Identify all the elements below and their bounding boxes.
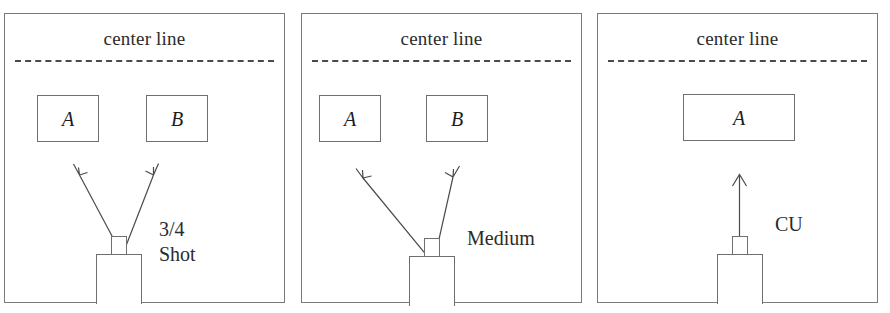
center-line-dashed-rule xyxy=(608,60,867,62)
camera-lens-icon xyxy=(732,236,748,255)
camera-body-icon xyxy=(409,256,455,306)
arrow-head-right xyxy=(445,166,460,177)
shot-type-label: Medium xyxy=(467,226,535,251)
arrow-head-right xyxy=(146,164,159,176)
center-line-dashed-rule xyxy=(15,60,274,62)
shot-panel-closeup: center line A CU xyxy=(597,13,878,303)
subject-box-a: A xyxy=(683,94,795,141)
shot-type-label: CU xyxy=(775,212,803,237)
center-line-label: center line xyxy=(302,28,581,50)
subject-box-b-label: B xyxy=(427,108,487,130)
sightline-arrows xyxy=(5,14,286,304)
camera-lens-icon xyxy=(424,238,440,257)
subject-box-b-label: B xyxy=(147,108,207,130)
subject-box-b: B xyxy=(426,95,488,142)
diagram-canvas: center line A B 3/4 Shot center line A xyxy=(0,0,890,313)
arrow-head-left xyxy=(74,164,88,175)
subject-box-a-label: A xyxy=(320,108,380,130)
shot-panel-medium: center line A B Medium xyxy=(301,13,582,303)
shot-panel-three-quarter: center line A B 3/4 Shot xyxy=(4,13,285,303)
center-line-label: center line xyxy=(598,28,877,50)
camera-body-icon xyxy=(717,254,763,304)
subject-box-a-label: A xyxy=(38,108,98,130)
camera-icon xyxy=(96,236,142,304)
subject-box-a-label: A xyxy=(684,107,794,129)
camera-lens-icon xyxy=(111,236,127,255)
camera-body-icon xyxy=(96,254,142,304)
camera-icon xyxy=(409,238,457,304)
subject-box-a: A xyxy=(319,95,381,142)
center-line-label: center line xyxy=(5,28,284,50)
arrow-head-center xyxy=(733,175,747,187)
camera-icon xyxy=(717,236,763,304)
subject-box-a: A xyxy=(37,95,99,142)
subject-box-b: B xyxy=(146,95,208,142)
arrow-head-left xyxy=(356,169,372,179)
shot-type-label: 3/4 Shot xyxy=(159,217,196,267)
center-line-dashed-rule xyxy=(312,60,571,62)
